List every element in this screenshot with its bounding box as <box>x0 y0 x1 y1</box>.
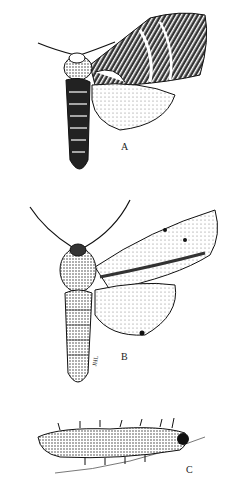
figure-label-a: A <box>121 141 128 152</box>
figure-a: A <box>0 0 235 185</box>
caterpillar-c-illustration <box>0 415 235 485</box>
figure-b: JHL B <box>0 195 235 395</box>
moth-b-illustration <box>0 195 235 395</box>
figure-c: C <box>0 415 235 485</box>
figure-label-c: C <box>186 464 193 475</box>
moth-a-illustration <box>0 0 235 185</box>
figure-label-b: B <box>121 351 128 362</box>
